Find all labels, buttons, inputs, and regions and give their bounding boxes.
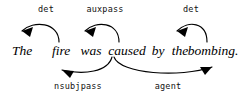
arcs-below-group: nsubjpass agent (54, 57, 212, 91)
dep-label-auxpass-was: auxpass (86, 4, 123, 14)
dep-label-nsubjpass-fire: nsubjpass (54, 81, 102, 91)
sentence-group: The fire was caused by the bombing. (12, 43, 238, 58)
arrowhead-det-the (22, 27, 33, 37)
word-caused: caused (108, 43, 146, 58)
arc-det-the: det (22, 4, 59, 42)
arc-auxpass-was: auxpass (85, 4, 124, 42)
arc-nsubjpass-fire: nsubjpass (54, 57, 112, 91)
word-bombing: bombing. (188, 43, 239, 58)
arrowhead-auxpass-was (85, 27, 96, 37)
word-by: by (152, 43, 165, 58)
dep-label-det-the: det (38, 4, 54, 14)
dep-label-agent-bombing: agent (155, 81, 182, 91)
arc-curve-agent-bombing (114, 57, 212, 73)
arc-agent-bombing: agent (114, 57, 212, 91)
word-the-1: The (12, 43, 32, 58)
arrowhead-det-the2 (177, 27, 188, 37)
word-was: was (80, 43, 101, 58)
word-the-2: the (172, 43, 189, 58)
parse-canvas: det auxpass det The fire was caused by t… (0, 0, 245, 98)
arrowhead-nsubjpass-fire (62, 70, 74, 78)
word-fire: fire (52, 43, 70, 58)
arc-curve-nsubjpass-fire (62, 57, 112, 72)
dependency-parse-diagram: det auxpass det The fire was caused by t… (0, 0, 245, 98)
arrowhead-agent-bombing (200, 67, 212, 75)
dep-label-det-the2: det (183, 4, 199, 14)
arc-det-the2: det (177, 4, 207, 42)
arcs-above-group: det auxpass det (22, 4, 207, 42)
